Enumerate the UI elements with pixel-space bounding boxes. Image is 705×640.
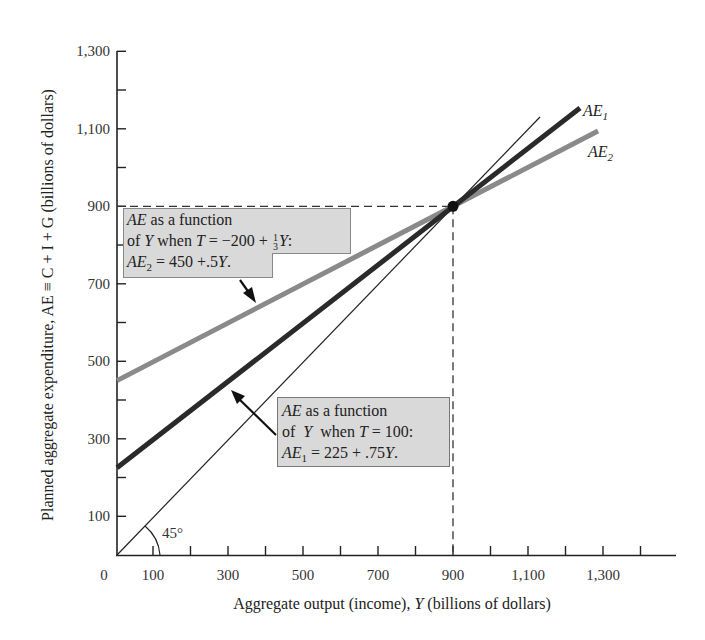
x-tick-label: 300 [217, 567, 240, 583]
y-axis-title: Planned aggregate expenditure, AE ≡ C + … [39, 89, 57, 521]
y-tick-label: 300 [88, 431, 111, 447]
ae1-callout-line2: of Y when T = 100: [282, 421, 445, 442]
ae2-callout-arrow [240, 280, 256, 303]
x-tick-label: 900 [442, 567, 465, 583]
origin-label: 0 [100, 567, 108, 583]
x-tick-labels: 0 100 300 500 700 900 1,100 1,300 [100, 567, 620, 583]
chart: 100 300 500 700 900 1,100 1,300 0 100 30… [0, 0, 705, 640]
ae2-callout-line3: AE2 = 450 +.5Y. [127, 251, 292, 278]
y-tick-label: 700 [88, 276, 111, 292]
ae2-callout-line2: of Y when T = −200 + 13Y: [127, 230, 292, 251]
equilibrium-point [448, 201, 459, 212]
x-ticks [153, 546, 641, 555]
x-tick-label: 1,300 [586, 567, 620, 583]
y-tick-labels: 100 300 500 700 900 1,100 1,300 [76, 43, 110, 524]
ae1-label: AE1 [582, 102, 608, 122]
x-tick-label: 1,100 [511, 567, 545, 583]
ae2-label: AE2 [587, 143, 614, 163]
ae2-callout: AE as a function of Y when T = −200 + 13… [123, 208, 351, 278]
y-tick-label: 500 [88, 353, 111, 369]
x-tick-label: 100 [142, 567, 165, 583]
x-axis-title: Aggregate output (income), Y (billions o… [233, 595, 551, 613]
x-tick-label: 500 [292, 567, 315, 583]
fraction-one-third: 13 [273, 233, 278, 251]
45-degree-line [117, 117, 540, 555]
y-ticks [117, 51, 126, 516]
y-tick-label: 1,100 [76, 121, 110, 137]
x-tick-label: 700 [367, 567, 390, 583]
ae1-callout-line3: AE1 = 225 + .75Y. [282, 442, 445, 469]
y-tick-label: 900 [88, 198, 111, 214]
ae2-callout-line1: AE as a function [127, 209, 292, 230]
y-tick-label: 100 [88, 508, 111, 524]
ae1-callout-line1: AE as a function [282, 400, 445, 421]
y-tick-label: 1,300 [76, 43, 110, 59]
angle-label: 45° [162, 525, 183, 541]
ae1-callout: AE as a function of Y when T = 100: AE1 … [277, 397, 450, 467]
